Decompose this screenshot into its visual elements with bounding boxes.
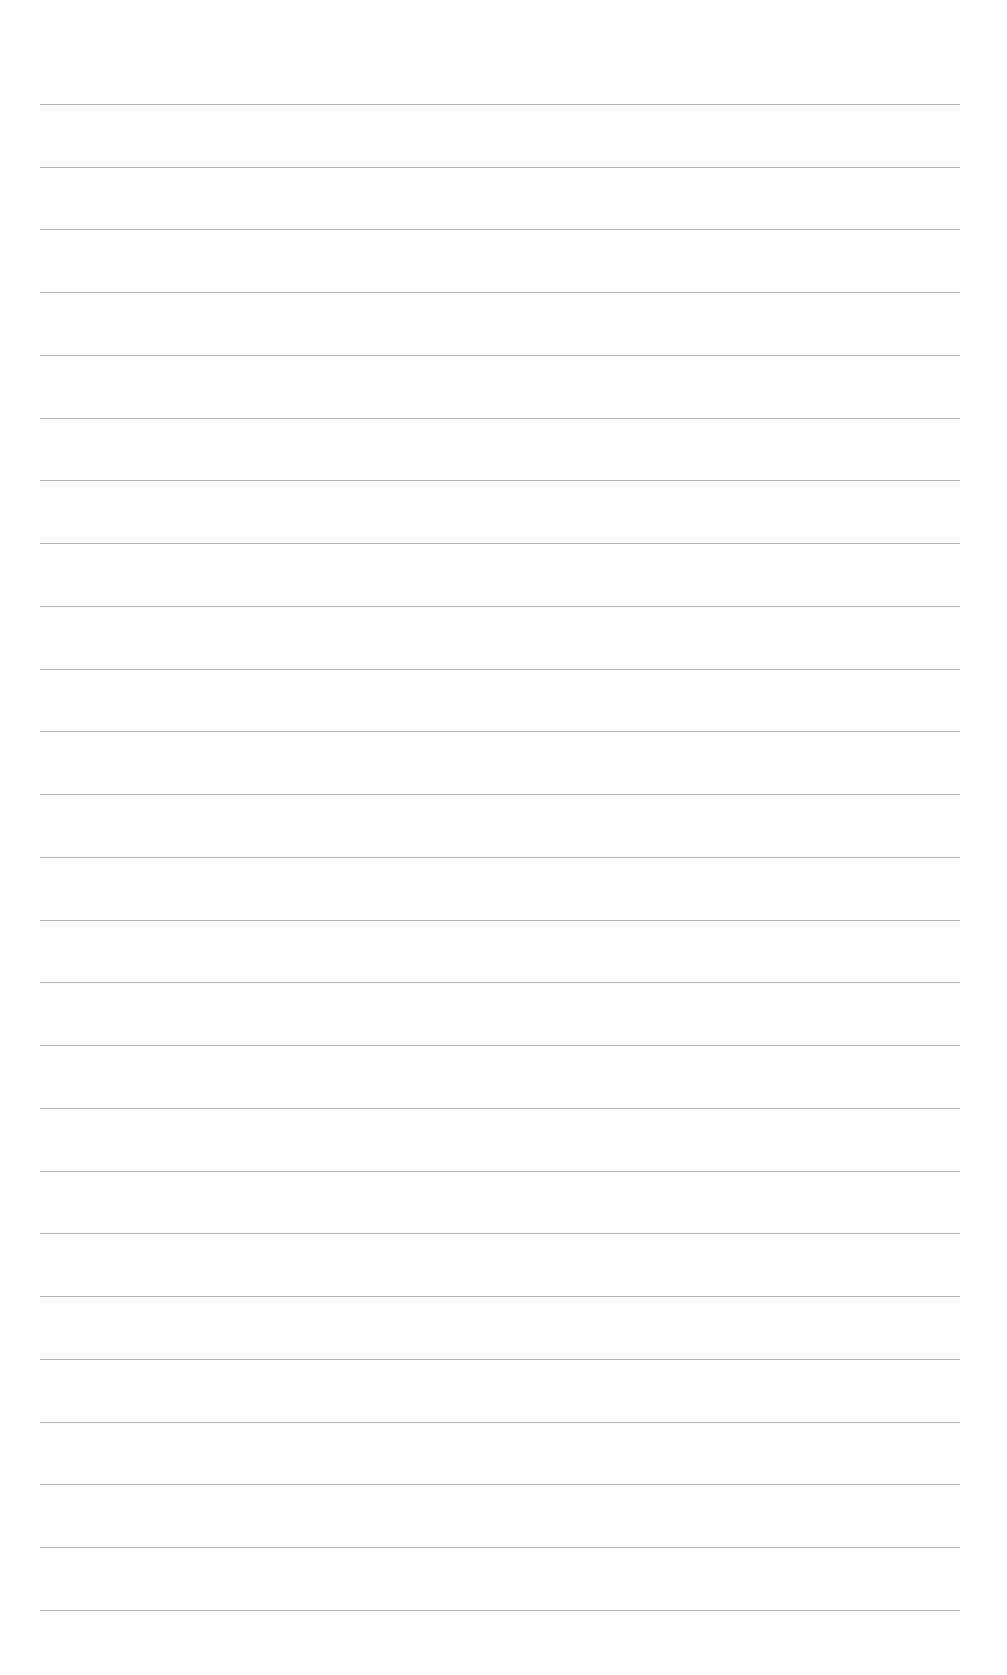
ruled-line xyxy=(40,1045,960,1046)
ruled-line xyxy=(40,229,960,230)
ruled-line xyxy=(40,1484,960,1485)
ruled-line xyxy=(40,857,960,858)
ruled-line xyxy=(40,1108,960,1109)
ruled-line xyxy=(40,1359,960,1360)
ruled-line xyxy=(40,1547,960,1548)
ruled-line xyxy=(40,1233,960,1234)
ruled-line xyxy=(40,1610,960,1611)
ruled-line xyxy=(40,104,960,105)
ruled-line xyxy=(40,1171,960,1172)
ruled-line xyxy=(40,1422,960,1423)
ruled-line xyxy=(40,167,960,168)
ruled-line xyxy=(40,543,960,544)
ruled-line xyxy=(40,982,960,983)
ruled-line xyxy=(40,292,960,293)
ruled-line xyxy=(40,606,960,607)
ruled-line xyxy=(40,1296,960,1297)
ruled-line xyxy=(40,418,960,419)
ruled-line xyxy=(40,669,960,670)
ruled-line xyxy=(40,731,960,732)
ruled-line xyxy=(40,920,960,921)
ruled-line xyxy=(40,480,960,481)
ruled-line xyxy=(40,794,960,795)
lined-paper-page xyxy=(0,0,1007,1675)
ruled-line xyxy=(40,355,960,356)
